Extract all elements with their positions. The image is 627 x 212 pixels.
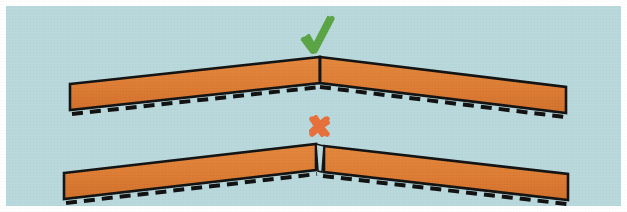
- ridge-joint-diagram: [0, 0, 627, 212]
- figure-root: [0, 0, 627, 212]
- ridge-joint-gap-lower: [316, 144, 324, 172]
